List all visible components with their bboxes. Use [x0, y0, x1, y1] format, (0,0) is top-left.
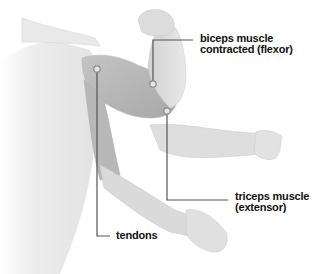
label-triceps-line2: (extensor) [235, 202, 309, 213]
arm-muscle-diagram: biceps muscle contracted (flexor) tricep… [0, 0, 323, 274]
torso-shape [0, 18, 100, 274]
label-biceps: biceps muscle contracted (flexor) [200, 33, 293, 55]
horizontal-forearm-shape [150, 124, 282, 159]
label-tendons: tendons [116, 230, 157, 241]
label-tendons-line1: tendons [116, 230, 157, 241]
label-triceps: triceps muscle (extensor) [235, 191, 309, 213]
label-biceps-line2: contracted (flexor) [200, 44, 293, 55]
